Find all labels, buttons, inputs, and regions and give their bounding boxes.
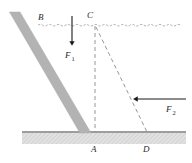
dashed-line-c-to-d (96, 27, 147, 132)
label-point-d: D (142, 144, 150, 154)
water-surface-line (38, 24, 181, 26)
label-force-1-symbol: F (64, 50, 71, 60)
ground-band (22, 132, 186, 144)
label-force-1-subscript: 1 (72, 55, 75, 62)
label-point-a: A (90, 144, 97, 154)
label-point-b: B (38, 12, 44, 22)
ladder-beam (10, 12, 92, 133)
label-force-1: F 1 (64, 50, 75, 62)
diagram-canvas: B C A D F 1 F 2 (0, 0, 192, 163)
label-force-2: F 2 (165, 104, 176, 116)
label-force-2-subscript: 2 (173, 109, 176, 116)
label-point-c: C (87, 10, 94, 20)
label-force-2-symbol: F (165, 104, 172, 114)
physics-diagram-figure: B C A D F 1 F 2 (0, 0, 192, 163)
